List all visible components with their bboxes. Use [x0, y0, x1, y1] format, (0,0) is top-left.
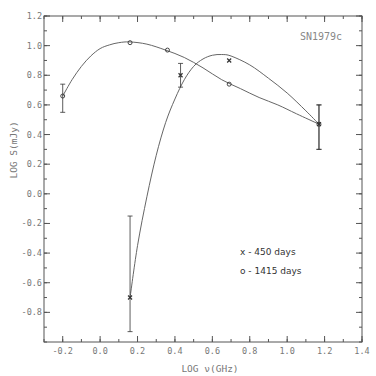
axis-ticks: -0.20.00.20.40.60.81.01.21.41.21.00.80.6… — [22, 11, 370, 356]
data-points — [60, 41, 321, 332]
x-tick-label: 1.0 — [279, 346, 294, 356]
plot-axes — [44, 16, 362, 342]
y-tick-label: 1.2 — [27, 11, 42, 21]
x-tick-label: -0.2 — [52, 346, 72, 356]
x-tick-label: 0.6 — [205, 346, 220, 356]
y-tick-label: 0.8 — [27, 70, 42, 80]
y-tick-label: 0.2 — [27, 159, 42, 169]
fit-curves — [63, 42, 319, 298]
y-axis-label: LOG S(mJy) — [8, 121, 19, 178]
x-axis-label: LOG ν(GHz) — [181, 363, 238, 374]
y-tick-label: 0.6 — [27, 100, 42, 110]
chart: -0.20.00.20.40.60.81.01.21.41.21.00.80.6… — [0, 0, 376, 376]
y-tick-label: -0.8 — [22, 307, 42, 317]
y-tick-label: -0.6 — [22, 278, 42, 288]
y-tick-label: 0.4 — [27, 130, 42, 140]
x-tick-label: 0.2 — [130, 346, 145, 356]
y-tick-label: 0.0 — [27, 189, 42, 199]
legend: x - 450 dayso - 1415 days — [240, 247, 302, 276]
y-tick-label: -0.2 — [22, 218, 42, 228]
fit-curve-1415-days — [63, 42, 319, 124]
legend-entry: x - 450 days — [240, 247, 296, 257]
x-tick-label: 0.8 — [242, 346, 257, 356]
x-tick-label: 0.4 — [167, 346, 182, 356]
plot-frame — [44, 16, 362, 342]
x-tick-label: 0.0 — [92, 346, 107, 356]
chart-annotation: SN1979c — [300, 31, 342, 42]
x-marker — [227, 58, 231, 62]
x-tick-label: 1.4 — [354, 346, 369, 356]
o-marker — [128, 41, 132, 45]
fit-curve-450-days — [130, 54, 319, 297]
x-tick-label: 1.2 — [317, 346, 332, 356]
y-tick-label: -0.4 — [22, 248, 42, 258]
y-tick-label: 1.0 — [27, 41, 42, 51]
legend-entry: o - 1415 days — [240, 266, 302, 276]
